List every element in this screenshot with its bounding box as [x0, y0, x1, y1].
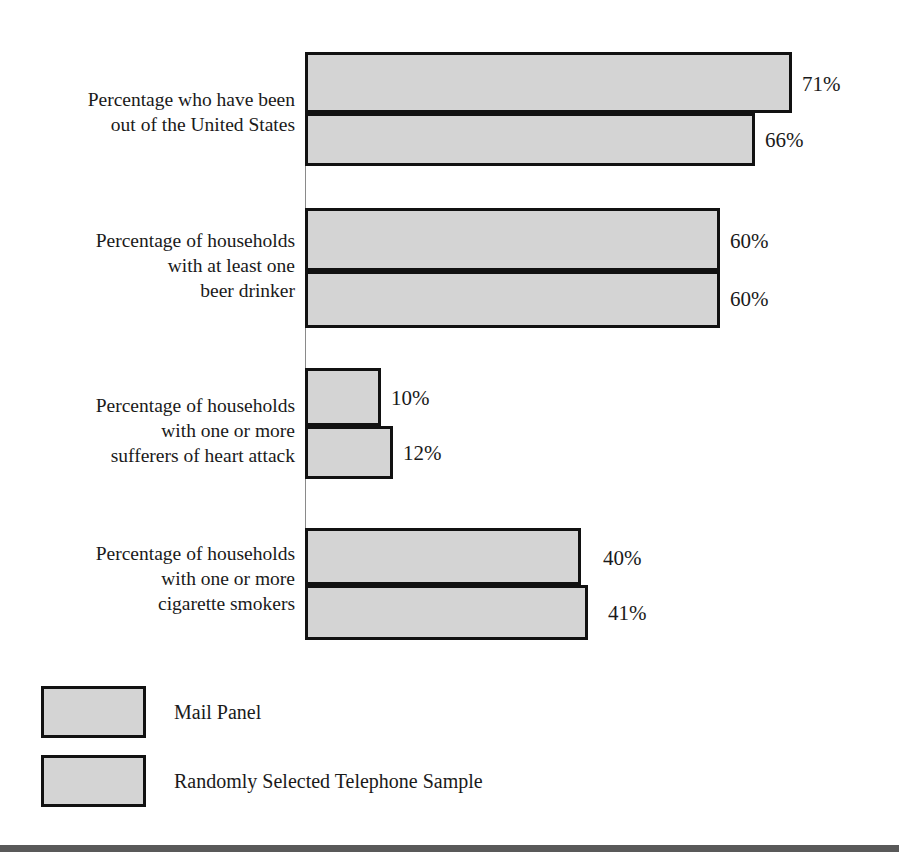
bar-group: Percentage of households with one or mor… — [0, 528, 899, 644]
bar-value-label: 10% — [391, 388, 430, 409]
chart-root: Percentage who have been out of the Unit… — [0, 0, 899, 859]
bar-value-label: 66% — [765, 130, 804, 151]
legend-swatch-telephone-sample — [41, 755, 146, 807]
bar-value-label: 60% — [730, 231, 769, 252]
bar-value-label: 12% — [403, 443, 442, 464]
legend-label: Randomly Selected Telephone Sample — [174, 768, 483, 794]
bar-mail-panel[interactable] — [305, 368, 381, 426]
plot-area: Percentage who have been out of the Unit… — [0, 0, 899, 660]
bar-telephone-sample[interactable] — [305, 585, 588, 640]
bar-group: Percentage who have been out of the Unit… — [0, 52, 899, 198]
bar-group: Percentage of households with at least o… — [0, 208, 899, 354]
bottom-divider-rule — [0, 845, 899, 852]
bar-value-label: 60% — [730, 289, 769, 310]
bar-telephone-sample[interactable] — [305, 271, 720, 328]
bar-value-label: 41% — [608, 603, 647, 624]
bar-value-label: 40% — [603, 548, 642, 569]
bar-mail-panel[interactable] — [305, 528, 581, 585]
bar-mail-panel[interactable] — [305, 52, 792, 113]
bar-telephone-sample[interactable] — [305, 113, 755, 166]
category-label: Percentage of households with at least o… — [15, 228, 295, 303]
category-label: Percentage who have been out of the Unit… — [15, 87, 295, 137]
legend-label: Mail Panel — [174, 699, 261, 725]
bar-group: Percentage of households with one or mor… — [0, 368, 899, 488]
bar-value-label: 71% — [802, 74, 841, 95]
legend-swatch-mail-panel — [41, 686, 146, 738]
category-label: Percentage of households with one or mor… — [15, 541, 295, 616]
chart-legend: Mail Panel Randomly Selected Telephone S… — [0, 660, 899, 820]
bar-telephone-sample[interactable] — [305, 426, 393, 479]
category-label: Percentage of households with one or mor… — [15, 393, 295, 468]
bar-mail-panel[interactable] — [305, 208, 720, 271]
